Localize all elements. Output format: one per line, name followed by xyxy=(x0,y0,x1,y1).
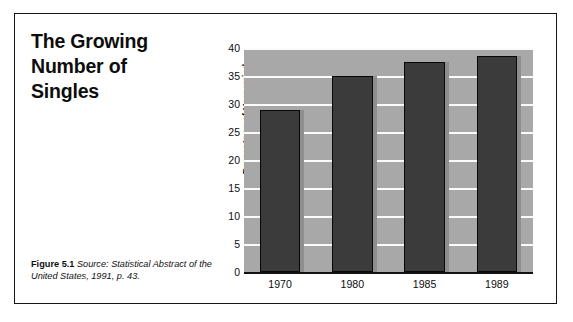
bar-slot xyxy=(244,48,316,272)
y-axis-tick-label: 25 xyxy=(214,127,240,138)
bar-chart: Percentage of Unmarried People Over 18 0… xyxy=(196,44,546,294)
x-axis-tick-label: 1970 xyxy=(268,278,292,290)
y-axis-tick-label: 0 xyxy=(214,267,240,278)
y-axis-tick-label: 40 xyxy=(214,43,240,54)
y-axis-tick-label: 30 xyxy=(214,99,240,110)
y-axis-tick-label: 20 xyxy=(214,155,240,166)
x-axis-tick-label: 1989 xyxy=(485,278,509,290)
figure-root: The Growing Number of Singles Figure 5.1… xyxy=(0,0,573,322)
bar[interactable] xyxy=(477,56,517,272)
y-axis-tick-label: 10 xyxy=(214,211,240,222)
x-axis-tick-label: 1985 xyxy=(413,278,437,290)
bar-slot xyxy=(461,48,533,272)
figure-caption: Figure 5.1 Source: Statistical Abstract … xyxy=(31,258,214,282)
y-axis-tick-label: 5 xyxy=(214,239,240,250)
caption-figure-number: Figure 5.1 xyxy=(31,259,74,269)
bar[interactable] xyxy=(404,62,444,272)
bar[interactable] xyxy=(332,76,372,272)
title-block: The Growing Number of Singles xyxy=(31,29,206,104)
x-axis-tick-labels: 1970198019851989 xyxy=(244,278,533,296)
bar-slot xyxy=(389,48,461,272)
page-title: The Growing Number of Singles xyxy=(31,29,206,104)
bar-slot xyxy=(316,48,388,272)
y-axis-tick-labels: 0510152025303540 xyxy=(214,44,240,272)
plot-area xyxy=(244,48,533,274)
bar[interactable] xyxy=(260,110,300,272)
y-axis-tick-label: 15 xyxy=(214,183,240,194)
y-axis-tick-label: 35 xyxy=(214,71,240,82)
x-axis-tick-label: 1980 xyxy=(341,278,365,290)
